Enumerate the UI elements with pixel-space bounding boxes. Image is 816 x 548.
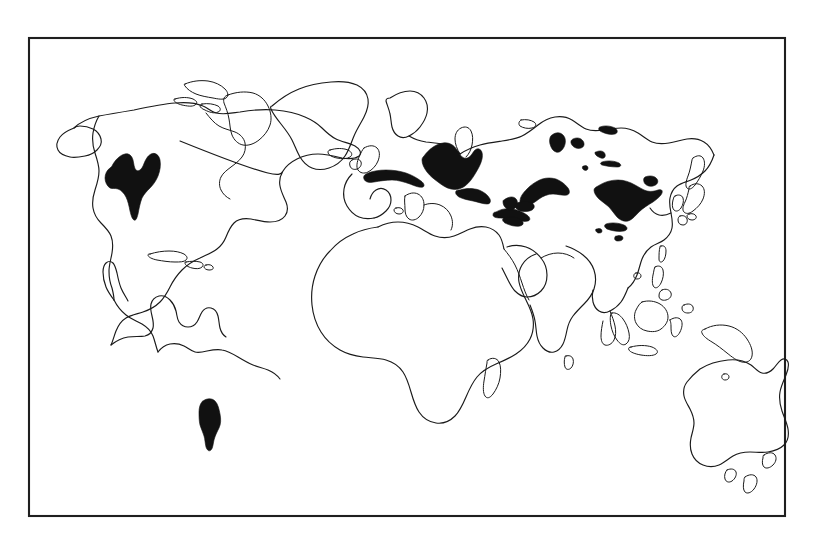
shaded-region-asia-dot-1 [582,166,588,171]
shaded-region-asia-dot-2 [596,229,602,233]
shaded-region-indochina-spot [615,236,623,241]
figure-root [0,0,816,548]
map-background [0,0,816,548]
shaded-region-northeast-china [644,176,658,186]
shaded-region-himalaya [515,202,535,212]
world-map [0,0,816,548]
